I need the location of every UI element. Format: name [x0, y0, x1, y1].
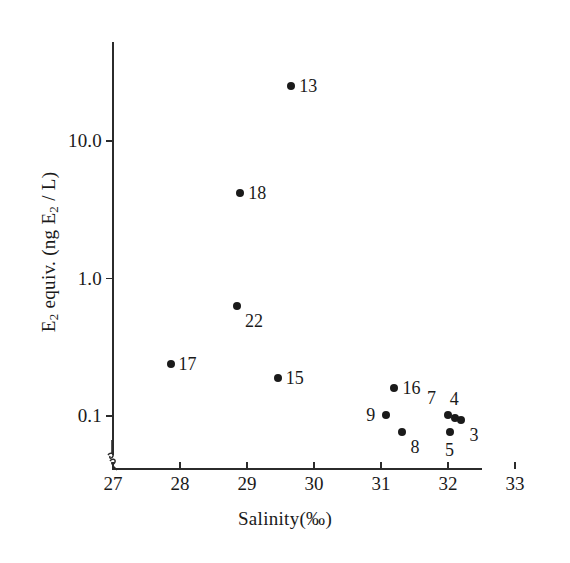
- x-tick-label: 27: [90, 474, 136, 493]
- axis-break-icon: [101, 440, 127, 472]
- x-tick-mark: [179, 462, 181, 469]
- data-point: [398, 428, 406, 436]
- data-point: [390, 384, 398, 392]
- y-axis-title-mid: equiv. (ng E: [38, 213, 59, 314]
- x-tick-label: 29: [224, 474, 270, 493]
- data-point-label: 13: [299, 77, 317, 95]
- data-point-label: 9: [366, 406, 375, 424]
- data-point-label: 18: [248, 184, 266, 202]
- data-point: [274, 374, 282, 382]
- x-tick-mark: [514, 462, 516, 469]
- y-axis-title-sub-1: 2: [46, 313, 61, 320]
- x-tick-mark: [447, 462, 449, 469]
- data-point-label: 4: [450, 390, 459, 408]
- x-tick-mark: [246, 462, 248, 469]
- data-point: [382, 411, 390, 419]
- data-point: [167, 360, 175, 368]
- x-tick-mark: [380, 462, 382, 469]
- data-point-label: 17: [179, 355, 197, 373]
- y-tick-mark: [106, 415, 113, 417]
- data-point: [446, 428, 454, 436]
- y-tick-mark: [106, 140, 113, 142]
- data-point-label: 7: [427, 389, 436, 407]
- x-axis-line: [112, 468, 482, 470]
- y-tick-mark: [106, 278, 113, 280]
- x-tick-label: 28: [157, 474, 203, 493]
- data-point: [287, 82, 295, 90]
- y-axis-line: [112, 42, 114, 455]
- y-axis-title-lead: E: [38, 320, 59, 332]
- scatter-plot-figure: 10.01.00.127282930313233 131822171516987…: [0, 0, 570, 563]
- y-axis-title-sub-2: 2: [46, 206, 61, 213]
- data-point-label: 16: [402, 379, 420, 397]
- x-tick-mark: [112, 462, 114, 469]
- data-point: [236, 189, 244, 197]
- data-point: [233, 302, 241, 310]
- x-tick-label: 30: [291, 474, 337, 493]
- x-tick-label: 32: [425, 474, 471, 493]
- x-axis-title-text: Salinity: [238, 508, 300, 529]
- data-point-label: 15: [286, 369, 304, 387]
- data-point-label: 3: [469, 426, 478, 444]
- data-point-label: 5: [445, 441, 454, 459]
- x-tick-label: 31: [358, 474, 404, 493]
- data-point: [457, 416, 465, 424]
- x-axis-title-unit: (‰): [299, 508, 332, 529]
- data-point-label: 22: [245, 312, 263, 330]
- x-tick-mark: [313, 462, 315, 469]
- data-point-label: 8: [410, 438, 419, 456]
- y-axis-title-tail: / L): [38, 172, 59, 206]
- y-axis-title: E2 equiv. (ng E2 / L): [38, 52, 62, 452]
- x-axis-title: Salinity(‰): [0, 508, 570, 530]
- x-tick-label: 33: [492, 474, 538, 493]
